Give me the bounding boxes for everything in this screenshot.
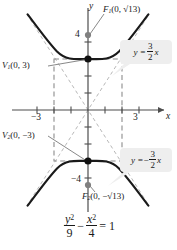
asymptote-callout-negative: y = − 3 2 x: [120, 148, 172, 172]
hyperbola-equation: y2 9 − x2 4 = 1: [0, 213, 177, 239]
asymptote-neg-sign: −: [143, 155, 148, 165]
y-tick-label-neg4: −4: [71, 175, 81, 185]
focus-point-f1: [85, 32, 91, 38]
focus-label-f1: F1(0, √13): [103, 5, 140, 15]
leader-v2: [48, 136, 86, 161]
asymptote-neg-lhs: y =: [131, 155, 143, 165]
asymptote-equation-positive: y = 3 2 x: [134, 42, 159, 62]
x-axis-label: x: [166, 112, 170, 122]
asymptote-neg-variable: x: [157, 155, 161, 165]
vertex-label-v1: V1(0, 3): [2, 61, 30, 71]
equation-left-denominator: 9: [66, 226, 74, 239]
asymptote-neg-numerator: 3: [149, 150, 156, 160]
asymptote-pos-variable: x: [154, 47, 158, 57]
equation-right-num-exponent: 2: [92, 213, 96, 222]
equation-left-num-exponent: 2: [70, 213, 74, 222]
asymptote-equation-negative: y = − 3 2 x: [131, 150, 161, 170]
asymptote-pos-lhs: y =: [134, 47, 146, 57]
leader-f1: [90, 14, 104, 34]
equation-right-denominator: 4: [88, 226, 96, 239]
equation-left-numerator: y2: [64, 213, 75, 226]
vertex-label-v2: V2(0, −3): [2, 131, 35, 141]
vertex-label-v2-coords: (0, −3): [10, 130, 35, 140]
asymptote-callout-positive: y = 3 2 x: [120, 40, 172, 64]
vertex-point-v1: [84, 55, 91, 62]
focus-label-f1-coords: (0, √13): [111, 4, 140, 14]
focus-label-f2-coords: (0, −√13): [90, 191, 124, 201]
equation-right-fraction: x2 4: [86, 213, 97, 239]
asymptote-pos-fraction: 3 2: [147, 42, 154, 62]
y-axis-label: y: [89, 2, 93, 12]
vertex-point-v2: [84, 157, 91, 164]
x-tick-label-pos3: 3: [133, 113, 138, 123]
asymptote-pos-numerator: 3: [147, 42, 154, 52]
equation-equals: = 1: [99, 219, 115, 234]
equation-operator: −: [77, 219, 84, 234]
leader-lines: [48, 14, 104, 192]
focus-label-f2: F2(0, −√13): [82, 192, 124, 202]
equation-right-numerator: x2: [86, 213, 97, 226]
equation-left-fraction: y2 9: [64, 213, 75, 239]
vertex-label-v1-coords: (0, 3): [10, 60, 30, 70]
axes: [12, 8, 164, 212]
asymptote-pos-denominator: 2: [147, 52, 154, 62]
asymptote-neg-fraction: 3 2: [149, 150, 156, 170]
asymptote-neg-denominator: 2: [149, 160, 156, 170]
y-tick-label-4: 4: [75, 30, 80, 40]
focus-point-f2: [85, 182, 91, 188]
x-tick-label-neg3: −3: [31, 113, 41, 123]
